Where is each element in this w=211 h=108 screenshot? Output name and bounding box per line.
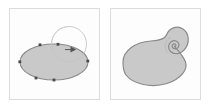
figure-title: Spiralize path effect: before and after [0,0,1,1]
figure-container: Spiralize path effect: before and after … [0,0,211,108]
spiral-blob-shape[interactable] [123,27,188,85]
after-canvas [111,9,200,99]
path-node[interactable] [18,60,21,63]
path-node[interactable] [53,79,56,82]
path-node[interactable] [35,77,38,80]
panel-before: Before Filled ellipse with editable path… [9,8,100,100]
panel-after: After The same blob deformed so its uppe… [110,8,201,100]
path-node[interactable] [86,60,89,63]
path-node[interactable] [39,43,42,46]
spiral-guide-arc-icon [52,27,69,45]
base-ellipse[interactable] [20,44,88,80]
path-node[interactable] [57,43,60,46]
before-canvas [10,9,99,99]
